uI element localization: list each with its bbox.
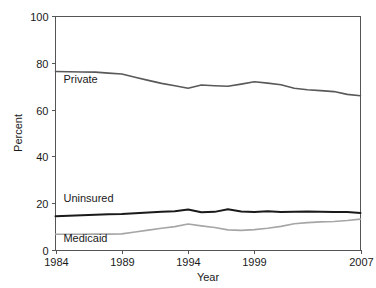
y-tick-label: 60	[36, 105, 48, 117]
x-tick-label: 1989	[110, 256, 134, 268]
x-axis-title: Year	[197, 271, 220, 283]
chart-container: 020406080100 19841989199419992007 Privat…	[0, 0, 376, 288]
x-tick-label: 1999	[242, 256, 266, 268]
y-axis-title: Percent	[12, 114, 24, 152]
series-label-uninsured: Uninsured	[63, 192, 113, 204]
series-label-medicaid: Medicaid	[63, 232, 107, 244]
x-tick-label: 1984	[44, 256, 68, 268]
x-tick-label: 2007	[349, 256, 373, 268]
x-tick-label: 1994	[176, 256, 200, 268]
y-tick-label: 40	[36, 151, 48, 163]
y-tick-label: 80	[36, 58, 48, 70]
series-label-private: Private	[63, 73, 97, 85]
chart-background	[0, 0, 376, 288]
line-chart: 020406080100 19841989199419992007 Privat…	[0, 0, 376, 288]
y-tick-label: 20	[36, 198, 48, 210]
y-tick-label: 0	[42, 245, 48, 257]
y-tick-label: 100	[30, 11, 48, 23]
